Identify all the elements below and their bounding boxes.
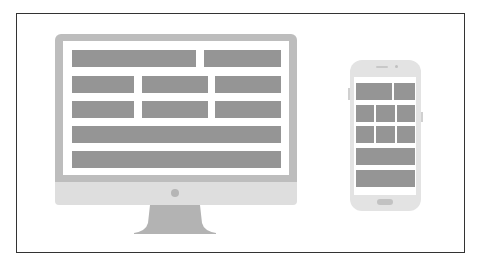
- phone-block-header-main: [356, 83, 392, 100]
- phone-block-r2c2: [376, 105, 395, 122]
- monitor-block-r3c3: [215, 101, 281, 118]
- monitor-block-full-2: [72, 151, 281, 168]
- phone-block-r3c3: [397, 126, 415, 143]
- monitor-stand-icon: [134, 205, 216, 234]
- phone-camera-icon: [395, 65, 398, 68]
- phone-block-r2c1: [356, 105, 374, 122]
- phone-block-full-1: [356, 148, 415, 165]
- phone-speaker-icon: [376, 66, 388, 68]
- phone-block-header-side: [394, 83, 415, 100]
- phone-block-r3c2: [376, 126, 395, 143]
- phone-block-r3c1: [356, 126, 374, 143]
- monitor-block-r3c2: [142, 101, 208, 118]
- phone-home-button: [377, 199, 393, 205]
- phone-power-button: [421, 112, 423, 122]
- monitor-block-header-main: [72, 50, 196, 67]
- phone-volume-button: [348, 88, 350, 100]
- monitor-logo-dot: [171, 189, 179, 197]
- monitor-block-r3c1: [72, 101, 134, 118]
- phone-block-full-2: [356, 170, 415, 187]
- monitor-block-r2c3: [215, 76, 281, 93]
- monitor-block-r2c2: [142, 76, 208, 93]
- monitor-block-r2c1: [72, 76, 134, 93]
- monitor-block-full-1: [72, 126, 281, 143]
- phone-block-r2c3: [397, 105, 415, 122]
- monitor-block-header-side: [204, 50, 281, 67]
